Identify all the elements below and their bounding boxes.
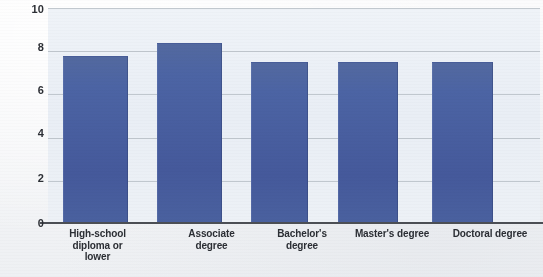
bar-high-school-diploma-or-lower: [63, 56, 128, 224]
y-tick-label-0: 0: [4, 218, 44, 229]
y-tick-label-10: 10: [4, 4, 44, 15]
x-tick-text: Bachelor'sdegree: [277, 228, 327, 251]
y-tick-label-6: 6: [4, 85, 44, 96]
y-tick-label-2: 2: [4, 173, 44, 184]
bar-associate-degree: [157, 43, 222, 224]
bar-masters-degree: [338, 62, 398, 224]
x-tick-label-doctoral-degree: Doctoral degree: [440, 228, 540, 240]
x-tick-text: Doctoral degree: [453, 228, 528, 239]
y-tick-label-8: 8: [4, 42, 44, 53]
y-axis: 10 8 6 4 2 0: [0, 0, 44, 277]
x-tick-label-high-school-diploma-or-lower: High-schooldiploma orlower: [42, 228, 153, 263]
plot-area: [48, 8, 540, 224]
y-tick-label-4: 4: [4, 128, 44, 139]
bar-doctoral-degree: [432, 62, 493, 224]
x-axis-line: [40, 222, 543, 224]
gridline-10: [48, 8, 540, 9]
gridline-8: [48, 51, 540, 52]
bar-bachelors-degree: [251, 62, 308, 224]
x-tick-text: High-schooldiploma orlower: [69, 228, 126, 262]
bar-chart: 10 8 6 4 2 0 High-schooldiploma orlower …: [0, 0, 543, 277]
x-tick-text: Master's degree: [355, 228, 429, 239]
x-tick-text: Associatedegree: [188, 228, 234, 251]
x-tick-label-masters-degree: Master's degree: [340, 228, 444, 240]
x-tick-label-bachelors-degree: Bachelor'sdegree: [250, 228, 354, 251]
